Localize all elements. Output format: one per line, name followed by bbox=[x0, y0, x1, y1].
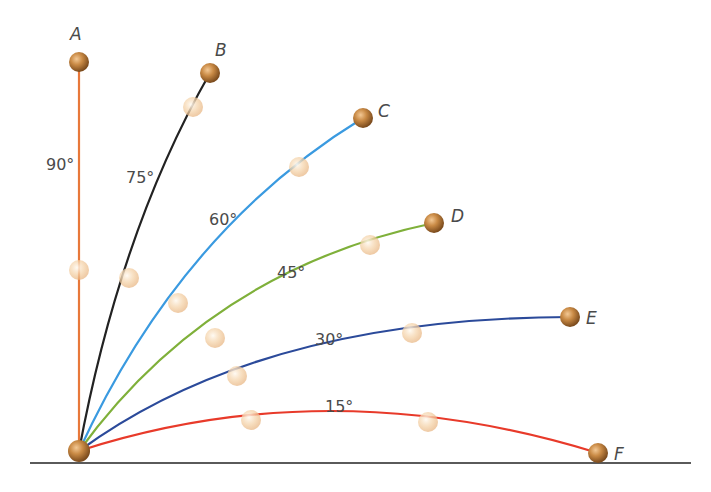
ghost-ball bbox=[241, 410, 261, 430]
point-label-d: D bbox=[451, 206, 464, 226]
ghost-ball bbox=[168, 293, 188, 313]
angle-label-b: 75° bbox=[126, 168, 154, 187]
trajectory-paths bbox=[79, 62, 598, 453]
ball-f bbox=[588, 443, 608, 463]
angle-label-f: 15° bbox=[325, 397, 353, 416]
point-label-a: A bbox=[69, 24, 82, 44]
ghost-ball bbox=[289, 157, 309, 177]
angle-label-a: 90° bbox=[46, 155, 74, 174]
ball-d bbox=[424, 213, 444, 233]
angle-label-d: 45° bbox=[277, 263, 305, 282]
ghost-ball bbox=[360, 235, 380, 255]
ghost-ball bbox=[227, 366, 247, 386]
point-label-e: E bbox=[586, 308, 597, 328]
point-label-f: F bbox=[614, 444, 624, 464]
ghost-ball bbox=[119, 268, 139, 288]
ghost-ball bbox=[183, 97, 203, 117]
ghost-ball bbox=[69, 260, 89, 280]
trajectory-f bbox=[79, 411, 598, 453]
projectile-trajectories-diagram: 90°A75°B60°C45°D30°E15°F bbox=[0, 0, 711, 492]
ball-b bbox=[200, 63, 220, 83]
ghost-ball bbox=[205, 328, 225, 348]
ball-a bbox=[69, 52, 89, 72]
point-label-c: C bbox=[378, 101, 390, 121]
trajectory-b bbox=[79, 73, 210, 451]
ball-c bbox=[353, 108, 373, 128]
ghost-ball bbox=[402, 323, 422, 343]
intermediate-positions bbox=[69, 97, 438, 432]
ball-e bbox=[560, 307, 580, 327]
point-label-b: B bbox=[215, 40, 227, 60]
ghost-ball bbox=[418, 412, 438, 432]
angle-label-e: 30° bbox=[315, 330, 343, 349]
angle-label-c: 60° bbox=[209, 210, 237, 229]
launch-ball bbox=[68, 440, 90, 462]
